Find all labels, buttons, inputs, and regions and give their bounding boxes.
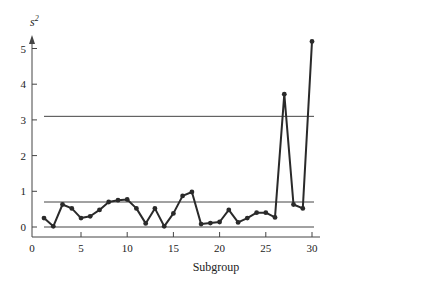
data-point [60,202,65,207]
series-line [44,41,312,226]
data-point [97,208,102,213]
data-point [263,210,268,215]
y-tick-label: 0 [21,221,27,233]
y-tick-label: 1 [21,185,27,197]
x-tick-label: 25 [260,242,272,254]
s-squared-control-chart: 012345 051015202530 s2 Subgroup [0,0,422,282]
data-point [282,92,287,97]
x-tick-label: 15 [168,242,180,254]
data-point [125,197,130,202]
x-axis: 051015202530 [29,232,320,254]
y-tick-label: 4 [21,78,27,90]
data-point [291,202,296,207]
data-point [190,190,195,195]
data-point [143,221,148,226]
data-point [106,200,111,205]
data-point [171,211,176,216]
y-axis-label: s2 [30,14,39,29]
data-series [42,39,315,229]
data-point [79,216,84,221]
data-point [134,206,139,211]
x-axis-label: Subgroup [193,260,240,274]
data-point [226,208,231,213]
x-tick-label: 0 [29,242,35,254]
data-point [236,220,241,225]
data-point [162,224,167,229]
data-point [208,221,213,226]
data-point [51,224,56,229]
y-axis-arrow-icon [29,35,35,44]
data-point [310,39,315,44]
data-point [42,216,47,221]
data-point [88,214,93,219]
data-point [116,198,121,203]
x-tick-label: 5 [78,242,84,254]
y-tick-label: 3 [21,114,27,126]
data-point [217,220,222,225]
x-tick-label: 30 [307,242,319,254]
y-tick-label: 2 [21,150,27,162]
data-point [69,206,74,211]
y-axis: 012345 [21,35,38,237]
data-point [254,210,259,215]
x-tick-label: 10 [122,242,134,254]
chart-svg: 012345 051015202530 s2 Subgroup [0,0,422,282]
data-point [153,206,158,211]
data-point [180,194,185,199]
data-point [199,222,204,227]
y-tick-label: 5 [21,43,27,55]
data-point [300,206,305,211]
data-point [273,215,278,220]
data-point [245,216,250,221]
x-tick-label: 20 [214,242,226,254]
control-limit-lines [44,116,314,227]
